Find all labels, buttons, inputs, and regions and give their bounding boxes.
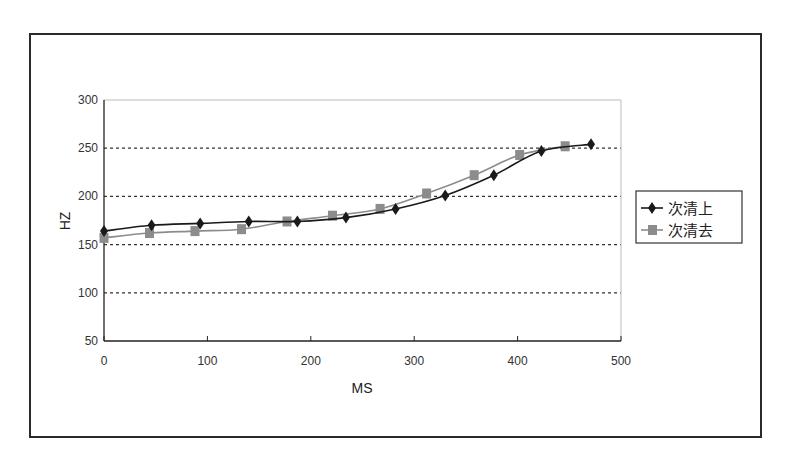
diamond-marker-icon <box>490 169 498 181</box>
legend: 次清上 次清去 <box>636 191 742 243</box>
diamond-marker-icon <box>441 189 449 201</box>
square-marker-icon <box>648 225 657 235</box>
legend-label-series-2: 次清去 <box>668 222 713 240</box>
y-tick-label: 50 <box>85 334 99 348</box>
axes <box>104 100 621 341</box>
x-axis-title: MS <box>352 380 373 396</box>
x-tick-label: 0 <box>101 354 108 368</box>
y-tick-label: 300 <box>78 93 98 107</box>
x-tick-label: 400 <box>508 354 528 368</box>
legend-label-series-1: 次清上 <box>668 200 713 218</box>
y-tick-label: 100 <box>78 286 98 300</box>
square-marker-icon <box>190 226 199 236</box>
square-marker-icon <box>237 224 246 234</box>
x-tick-label: 100 <box>197 354 217 368</box>
diamond-marker-icon <box>587 138 595 150</box>
gridlines <box>104 148 621 293</box>
x-tick-label: 500 <box>611 354 631 368</box>
square-marker-icon <box>470 170 479 180</box>
y-tick-label: 200 <box>78 189 98 203</box>
y-tick-label: 150 <box>78 238 98 252</box>
diamond-marker-icon <box>293 215 301 227</box>
y-axis-title: HZ <box>57 211 73 230</box>
line-chart: 501001502002503000100200300400500 MS HZ … <box>0 0 786 468</box>
x-tick-label: 300 <box>404 354 424 368</box>
y-tick-label: 250 <box>78 141 98 155</box>
square-marker-icon <box>422 189 431 199</box>
diamond-marker-icon <box>537 145 545 157</box>
series-lines <box>100 138 596 243</box>
square-marker-icon <box>515 150 524 160</box>
x-tick-label: 200 <box>301 354 321 368</box>
tick-labels: 501001502002503000100200300400500 <box>78 93 631 368</box>
